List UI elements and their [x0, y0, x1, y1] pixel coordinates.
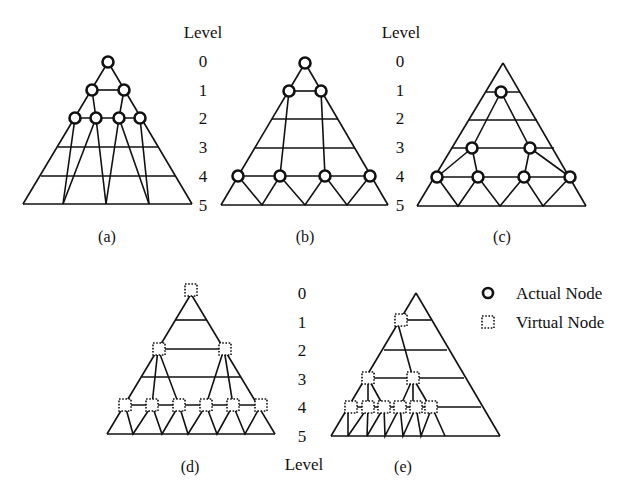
level-axis-3: 0 1 2 3 4 5 Level	[285, 284, 324, 474]
actual-node	[519, 172, 530, 183]
virtual-node-legend-icon	[482, 316, 494, 328]
level-label: 5	[199, 196, 208, 215]
level-label: 3	[396, 138, 405, 157]
virtual-node	[119, 399, 131, 411]
virtual-node	[146, 399, 158, 411]
actual-node	[473, 172, 484, 183]
panel-caption: (e)	[394, 458, 412, 476]
actual-node	[103, 57, 114, 68]
hierarchy-diagram: (a) Level 0 1 2 3 4 5 (b) Level 0	[0, 0, 637, 495]
virtual-node	[255, 399, 267, 411]
virtual-node	[395, 314, 407, 326]
virtual-node	[200, 399, 212, 411]
virtual-node	[185, 284, 197, 296]
panel-caption: (a)	[98, 228, 116, 246]
virtual-node	[173, 399, 185, 411]
panel-d: (d)	[107, 284, 275, 476]
actual-node	[114, 113, 125, 124]
actual-node	[365, 171, 376, 182]
actual-node	[275, 171, 286, 182]
level-label: 0	[396, 52, 405, 71]
level-label: 2	[396, 109, 405, 128]
panel-c: (c)	[417, 63, 586, 246]
level-label: 1	[396, 81, 405, 100]
virtual-node	[362, 401, 374, 413]
legend-virtual-label: Virtual Node	[516, 313, 604, 332]
panel-caption: (d)	[181, 458, 200, 476]
virtual-node	[153, 343, 165, 355]
actual-node	[496, 87, 507, 98]
level-label: 3	[199, 138, 208, 157]
panel-caption: (c)	[493, 228, 511, 246]
actual-node	[70, 113, 81, 124]
actual-node	[91, 113, 102, 124]
level-label: 4	[396, 167, 405, 186]
actual-node	[467, 143, 478, 154]
actual-node	[432, 172, 443, 183]
virtual-node	[378, 401, 390, 413]
panel-b: (b)	[221, 58, 388, 247]
actual-node	[320, 171, 331, 182]
panel-e: (e)	[331, 293, 500, 476]
virtual-node	[362, 372, 374, 384]
virtual-node	[407, 372, 419, 384]
panel-caption: (b)	[296, 228, 315, 246]
level-label: 0	[199, 52, 208, 71]
level-header: Level	[285, 455, 324, 474]
legend: Actual Node Virtual Node	[482, 284, 604, 332]
level-axis-2: Level 0 1 2 3 4 5	[382, 23, 421, 215]
actual-node	[300, 58, 311, 69]
actual-node	[119, 85, 130, 96]
actual-node	[565, 172, 576, 183]
level-label: 2	[298, 341, 307, 360]
virtual-node	[425, 401, 437, 413]
level-header: Level	[184, 23, 223, 42]
level-label: 4	[298, 398, 307, 417]
actual-node	[284, 86, 295, 97]
level-label: 2	[199, 109, 208, 128]
level-header: Level	[382, 23, 421, 42]
level-axis-1: Level 0 1 2 3 4 5	[184, 23, 223, 215]
level-label: 5	[396, 196, 405, 215]
actual-node-legend-icon	[483, 288, 493, 298]
level-label: 1	[199, 81, 208, 100]
actual-node	[87, 85, 98, 96]
actual-node	[525, 143, 536, 154]
virtual-node	[219, 343, 231, 355]
actual-node	[135, 113, 146, 124]
virtual-node	[394, 401, 406, 413]
level-label: 1	[298, 313, 307, 332]
actual-node	[316, 86, 327, 97]
virtual-node	[227, 399, 239, 411]
actual-node	[233, 171, 244, 182]
virtual-node	[345, 401, 357, 413]
level-label: 0	[298, 284, 307, 303]
panel-a: (a)	[23, 57, 192, 247]
virtual-node	[410, 401, 422, 413]
level-label: 5	[298, 427, 307, 446]
legend-actual-label: Actual Node	[516, 284, 602, 303]
level-label: 4	[199, 167, 208, 186]
level-label: 3	[298, 370, 307, 389]
